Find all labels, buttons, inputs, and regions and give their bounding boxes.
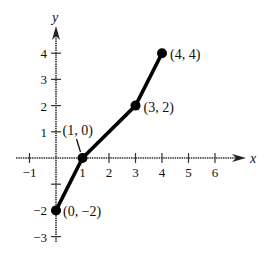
axes bbox=[16, 26, 246, 242]
y-axis-arrow-icon bbox=[52, 26, 60, 40]
point-label: (1, 0) bbox=[63, 123, 94, 139]
point-label: (0, −2) bbox=[63, 204, 102, 220]
x-tick-label: 3 bbox=[132, 165, 139, 180]
point-label: (3, 2) bbox=[144, 100, 175, 116]
y-axis-label: y bbox=[50, 10, 59, 25]
annotation-leader-line bbox=[77, 139, 81, 152]
x-tick-label: 2 bbox=[106, 165, 113, 180]
x-tick-label: 6 bbox=[212, 165, 219, 180]
y-tick-label: 4 bbox=[41, 46, 48, 61]
y-tick-label: −3 bbox=[33, 230, 47, 245]
data-point-marker bbox=[78, 153, 88, 163]
y-tick-label: 1 bbox=[41, 125, 48, 140]
x-tick-label: −1 bbox=[23, 165, 37, 180]
y-tick-label: −2 bbox=[33, 203, 47, 218]
y-tick-label: 3 bbox=[41, 72, 48, 87]
x-axis-arrow-icon bbox=[232, 154, 246, 162]
chart: −11234564321−2−3 (0, −2)(1, 0)(3, 2)(4, … bbox=[0, 0, 277, 259]
data-point-marker bbox=[51, 205, 61, 215]
x-tick-label: 1 bbox=[79, 165, 86, 180]
tick-labels: −11234564321−2−3 bbox=[23, 46, 219, 244]
y-tick-label: 2 bbox=[41, 99, 48, 114]
x-tick-label: 5 bbox=[185, 165, 192, 180]
point-annotations: (0, −2)(1, 0)(3, 2)(4, 4) bbox=[63, 47, 201, 220]
x-axis-label: x bbox=[249, 151, 257, 166]
point-label: (4, 4) bbox=[170, 47, 201, 63]
data-point-marker bbox=[157, 48, 167, 58]
x-tick-label: 4 bbox=[159, 165, 166, 180]
data-point-marker bbox=[131, 101, 141, 111]
